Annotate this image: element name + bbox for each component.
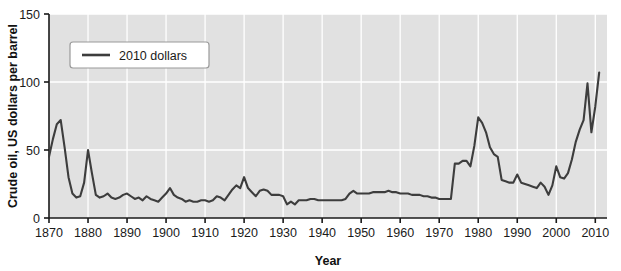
x-tick-label-1890: 1890 [113, 226, 141, 240]
x-tick-label-1930: 1930 [269, 226, 297, 240]
x-axis-tick-labels: 1870188018901900191019201930194019501960… [35, 226, 609, 240]
x-tick-label-1870: 1870 [35, 226, 63, 240]
x-tick-label-1960: 1960 [386, 226, 414, 240]
y-axis-title: Crude oil, US dollars per barrel [6, 24, 20, 208]
y-tick-label-50: 50 [26, 144, 40, 158]
x-tick-label-2010: 2010 [581, 226, 609, 240]
x-tick-label-2000: 2000 [542, 226, 570, 240]
y-tick-label-150: 150 [19, 8, 40, 22]
x-axis-title: Year [315, 254, 342, 268]
x-tick-label-1880: 1880 [74, 226, 102, 240]
x-tick-label-1990: 1990 [503, 226, 531, 240]
x-tick-label-1950: 1950 [347, 226, 375, 240]
chart-figure: 050100150 187018801890190019101920193019… [0, 0, 621, 271]
chart-legend[interactable]: 2010 dollars [70, 42, 209, 68]
x-tick-label-1980: 1980 [464, 226, 492, 240]
crude-oil-price-line-chart: 050100150 187018801890190019101920193019… [0, 0, 621, 271]
x-tick-label-1970: 1970 [425, 226, 453, 240]
x-tick-label-1910: 1910 [191, 226, 219, 240]
legend-label-2010-dollars: 2010 dollars [119, 49, 187, 63]
x-tick-label-1940: 1940 [308, 226, 336, 240]
y-tick-label-0: 0 [33, 212, 40, 226]
x-tick-label-1920: 1920 [230, 226, 258, 240]
x-tick-label-1900: 1900 [152, 226, 180, 240]
y-tick-label-100: 100 [19, 76, 40, 90]
